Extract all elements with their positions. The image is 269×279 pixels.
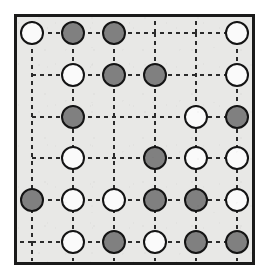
board-canvas bbox=[0, 0, 269, 279]
disc-white-r6c4[interactable] bbox=[144, 231, 166, 253]
disc-gray-r3c6[interactable] bbox=[226, 106, 248, 128]
disc-white-r5c6[interactable] bbox=[226, 189, 248, 211]
disc-gray-r5c5[interactable] bbox=[185, 189, 207, 211]
disc-gray-r5c1[interactable] bbox=[21, 189, 43, 211]
disc-white-r6c2[interactable] bbox=[62, 231, 84, 253]
disc-gray-r5c4[interactable] bbox=[144, 189, 166, 211]
disc-gray-r1c2[interactable] bbox=[62, 22, 84, 44]
lattice-board-figure bbox=[0, 0, 269, 279]
disc-gray-r3c2[interactable] bbox=[62, 106, 84, 128]
disc-gray-r2c3[interactable] bbox=[103, 64, 125, 86]
disc-white-r5c2[interactable] bbox=[62, 189, 84, 211]
disc-gray-r6c6[interactable] bbox=[226, 231, 248, 253]
disc-gray-r4c4[interactable] bbox=[144, 147, 166, 169]
disc-white-r4c5[interactable] bbox=[185, 147, 207, 169]
disc-white-r3c5[interactable] bbox=[185, 106, 207, 128]
disc-white-r1c1[interactable] bbox=[21, 22, 43, 44]
board-frame bbox=[16, 16, 254, 264]
disc-gray-r6c3[interactable] bbox=[103, 231, 125, 253]
disc-gray-r2c4[interactable] bbox=[144, 64, 166, 86]
disc-white-r4c2[interactable] bbox=[62, 147, 84, 169]
disc-white-r1c6[interactable] bbox=[226, 22, 248, 44]
disc-white-r2c6[interactable] bbox=[226, 64, 248, 86]
disc-gray-r6c5[interactable] bbox=[185, 231, 207, 253]
disc-white-r4c6[interactable] bbox=[226, 147, 248, 169]
disc-gray-r1c3[interactable] bbox=[103, 22, 125, 44]
disc-white-r2c2[interactable] bbox=[62, 64, 84, 86]
disc-white-r5c3[interactable] bbox=[103, 189, 125, 211]
